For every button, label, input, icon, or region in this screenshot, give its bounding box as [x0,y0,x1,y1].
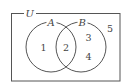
region-label-5: 5 [107,23,113,34]
region-label-2: 2 [63,42,69,53]
set-a-label: A [47,17,55,28]
set-b-label: B [78,17,86,28]
region-label-4: 4 [86,51,92,62]
region-label-3: 3 [86,32,92,43]
universe-label: U [26,8,35,19]
region-label-1: 1 [41,42,47,53]
venn-diagram: U A B 1 2 3 4 5 [0,0,126,84]
